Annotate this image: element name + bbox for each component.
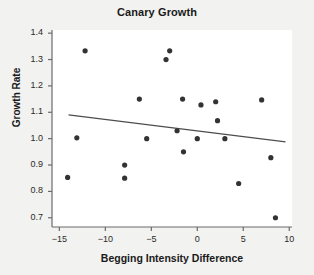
- plot-background: [52, 30, 292, 227]
- data-point: [215, 118, 220, 123]
- data-point: [213, 99, 218, 104]
- x-tick-label: −15: [44, 234, 74, 244]
- x-tick-label: 0: [182, 234, 212, 244]
- x-tick-label: 10: [274, 234, 304, 244]
- x-tick-label: −10: [90, 234, 120, 244]
- data-point: [83, 48, 88, 53]
- x-tick-label: 5: [228, 234, 258, 244]
- data-point: [122, 176, 127, 181]
- data-point: [122, 162, 127, 167]
- y-tick-label: 1.3: [17, 54, 43, 64]
- data-point: [163, 57, 168, 62]
- data-point: [180, 96, 185, 101]
- data-point: [65, 175, 70, 180]
- chart-figure: Canary Growth Growth Rate Begging Intens…: [0, 0, 314, 275]
- data-point: [137, 96, 142, 101]
- x-axis-title: Begging Intensity Difference: [52, 252, 292, 264]
- y-tick-label: 1.4: [17, 27, 43, 37]
- x-tick-label: −5: [136, 234, 166, 244]
- data-point: [174, 128, 179, 133]
- data-point: [144, 136, 149, 141]
- y-tick-label: 0.9: [17, 159, 43, 169]
- data-point: [198, 102, 203, 107]
- y-tick-label: 1.1: [17, 106, 43, 116]
- data-point: [74, 135, 79, 140]
- y-tick-label: 1.2: [17, 80, 43, 90]
- y-tick-label: 1.0: [17, 133, 43, 143]
- data-point: [222, 136, 227, 141]
- data-point: [268, 155, 273, 160]
- data-point: [236, 181, 241, 186]
- data-point: [259, 97, 264, 102]
- data-point: [273, 215, 278, 220]
- y-tick-label: 0.8: [17, 185, 43, 195]
- data-point: [167, 48, 172, 53]
- data-point: [195, 136, 200, 141]
- data-point: [181, 149, 186, 154]
- y-tick-label: 0.7: [17, 212, 43, 222]
